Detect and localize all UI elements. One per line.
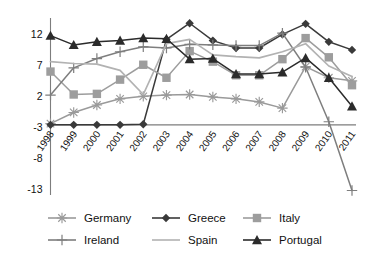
data-point-marker (116, 75, 124, 83)
data-point-marker (115, 47, 125, 57)
x-axis: 1998199920002001200220032004200520062007… (34, 125, 358, 153)
y-axis-tick-label: -8 (33, 152, 42, 164)
data-point-marker (208, 92, 218, 102)
x-axis-tick-label: 2002 (127, 128, 149, 153)
data-point-marker (69, 90, 77, 98)
data-point-marker (184, 89, 194, 99)
data-point-marker (139, 61, 147, 69)
data-point-marker (348, 46, 356, 54)
data-point-marker (347, 185, 357, 195)
data-point-marker (92, 53, 102, 63)
legend-item-italy[interactable]: Italy (243, 212, 300, 224)
data-point-marker (93, 121, 101, 129)
y-axis-tick-label: -13 (27, 183, 42, 195)
series-germany (45, 61, 357, 128)
line-chart: 1272-3-8-13 1998199920002001200220032004… (0, 0, 380, 259)
legend-label: Ireland (84, 234, 119, 246)
x-axis-tick-label: 2005 (197, 128, 219, 153)
legend-label: Portugal (279, 234, 322, 246)
data-point-marker (46, 31, 56, 40)
x-axis-tick-label: 2009 (289, 128, 311, 153)
data-point-marker (138, 42, 148, 52)
data-point-marker (68, 107, 78, 117)
x-axis-tick-label: 1999 (58, 128, 80, 153)
data-point-marker (115, 94, 125, 104)
x-axis-tick-label: 2000 (81, 128, 103, 153)
data-point-marker (254, 40, 264, 50)
data-point-marker (301, 34, 309, 42)
data-point-marker (278, 55, 286, 63)
data-point-marker (46, 67, 54, 75)
x-axis-tick-label: 2001 (104, 128, 126, 153)
legend-label: Germany (84, 212, 132, 224)
legend-item-spain[interactable]: Spain (152, 234, 217, 246)
series-layer (45, 19, 357, 196)
legend-label: Greece (188, 212, 226, 224)
data-point-marker (57, 213, 67, 223)
data-point-marker (93, 90, 101, 98)
legend-item-ireland[interactable]: Ireland (48, 234, 119, 246)
data-point-marker (325, 53, 333, 61)
data-point-marker (162, 74, 170, 82)
x-axis-tick-label: 2008 (266, 128, 288, 153)
y-axis-tick-label: 7 (37, 59, 43, 71)
x-axis-tick-label: 2011 (336, 128, 358, 152)
data-point-marker (231, 40, 241, 50)
data-point-marker (161, 90, 171, 100)
data-point-marker (92, 100, 102, 110)
data-point-marker (57, 235, 67, 245)
data-point-marker (254, 97, 264, 107)
data-point-marker (348, 81, 356, 89)
data-point-marker (253, 214, 261, 222)
y-axis-tick-label: 12 (31, 28, 43, 40)
data-point-marker (277, 103, 287, 113)
legend-label: Spain (188, 234, 217, 246)
data-point-marker (69, 121, 77, 129)
y-axis: 1272-3-8-13 (27, 18, 50, 195)
data-point-marker (162, 214, 170, 222)
x-axis-tick-label: 2003 (150, 128, 172, 153)
legend-label: Italy (279, 212, 300, 224)
data-point-marker (139, 120, 147, 128)
data-point-marker (231, 94, 241, 104)
chart-container: 1272-3-8-13 1998199920002001200220032004… (0, 0, 380, 259)
x-axis-tick-label: 2004 (174, 128, 196, 153)
legend-item-portugal[interactable]: Portugal (243, 234, 322, 246)
y-axis-tick-label: -3 (33, 121, 42, 133)
series-ireland (45, 28, 357, 196)
chart-legend: GermanyGreeceItalyIrelandSpainPortugal (48, 212, 322, 246)
data-point-marker (301, 53, 311, 62)
legend-item-germany[interactable]: Germany (48, 212, 132, 224)
x-axis-tick-label: 2006 (220, 128, 242, 153)
y-axis-tick-label: 2 (37, 90, 43, 102)
x-axis-tick-label: 2007 (243, 128, 265, 153)
x-axis-tick-label: 2010 (313, 128, 335, 153)
legend-item-greece[interactable]: Greece (152, 212, 226, 224)
data-point-marker (116, 121, 124, 129)
